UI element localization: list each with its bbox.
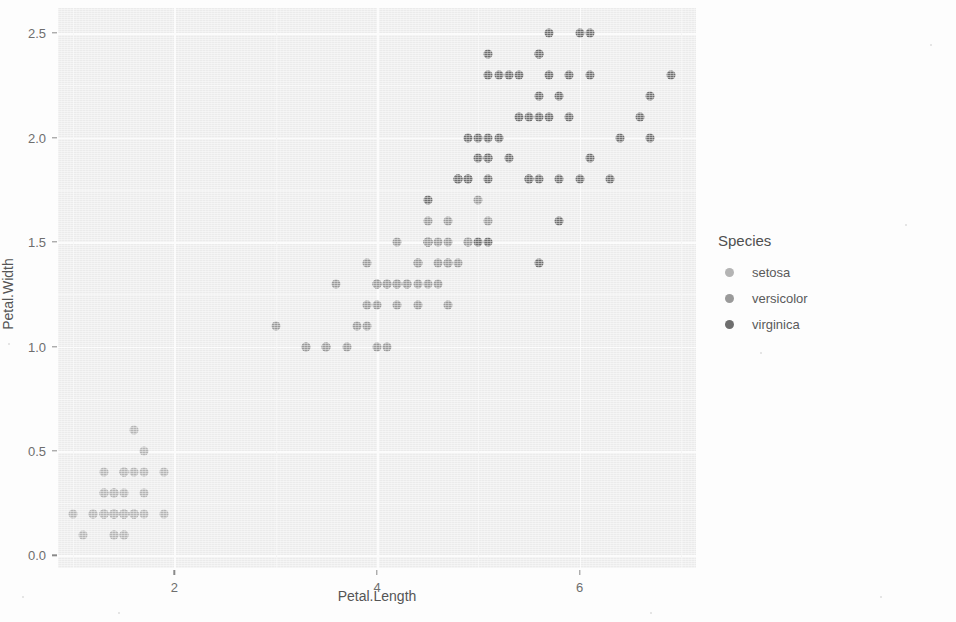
y-tick-mark: [52, 137, 57, 138]
data-point: [464, 238, 473, 247]
data-point: [109, 530, 118, 539]
data-point: [646, 133, 655, 142]
data-point: [373, 300, 382, 309]
y-tick-label: 0.5: [28, 443, 46, 458]
data-point: [140, 509, 149, 518]
data-point: [383, 342, 392, 351]
y-tick-mark: [52, 555, 57, 556]
data-point: [423, 279, 432, 288]
data-point: [464, 133, 473, 142]
data-point: [494, 133, 503, 142]
grid-line: [580, 8, 582, 568]
data-point: [362, 321, 371, 330]
data-point: [504, 70, 513, 79]
data-point: [555, 175, 564, 184]
x-tick-label: 6: [576, 580, 583, 595]
y-tick-label: 1.5: [28, 235, 46, 250]
data-point: [393, 300, 402, 309]
grid-line: [276, 8, 277, 568]
data-point: [575, 29, 584, 38]
data-point: [129, 426, 138, 435]
data-point: [484, 175, 493, 184]
speckle: [650, 612, 652, 614]
data-point: [433, 279, 442, 288]
data-point: [585, 29, 594, 38]
x-tick-label: 2: [171, 580, 178, 595]
data-point: [666, 70, 675, 79]
data-point: [99, 488, 108, 497]
data-point: [454, 258, 463, 267]
data-point: [585, 70, 594, 79]
data-point: [342, 342, 351, 351]
data-point: [129, 467, 138, 476]
y-tick-label: 2.5: [28, 26, 46, 41]
data-point: [545, 29, 554, 38]
data-point: [535, 112, 544, 121]
data-point: [443, 238, 452, 247]
y-axis-title: Petal.Width: [0, 258, 16, 330]
y-tick-label: 0.0: [28, 548, 46, 563]
data-point: [454, 175, 463, 184]
data-point: [413, 258, 422, 267]
data-point: [474, 238, 483, 247]
data-point: [119, 530, 128, 539]
data-point: [413, 279, 422, 288]
legend-dot-icon: [725, 268, 734, 277]
data-point: [332, 279, 341, 288]
speckle: [880, 596, 882, 598]
data-point: [494, 70, 503, 79]
data-point: [514, 112, 523, 121]
data-point: [636, 112, 645, 121]
legend-item-versicolor[interactable]: versicolor: [718, 285, 868, 311]
data-point: [464, 175, 473, 184]
y-tick-mark: [52, 450, 57, 451]
speckle: [22, 596, 24, 598]
data-point: [484, 133, 493, 142]
data-point: [545, 112, 554, 121]
x-axis-title: Petal.Length: [338, 588, 417, 604]
data-point: [433, 238, 442, 247]
data-point: [413, 300, 422, 309]
legend-label: versicolor: [752, 291, 808, 306]
legend-dot-icon: [725, 320, 734, 329]
data-point: [271, 321, 280, 330]
data-point: [79, 530, 88, 539]
data-point: [535, 175, 544, 184]
data-point: [504, 154, 513, 163]
data-point: [423, 196, 432, 205]
data-point: [99, 509, 108, 518]
legend: Species setosaversicolorvirginica: [718, 232, 868, 337]
data-point: [443, 217, 452, 226]
legend-item-virginica[interactable]: virginica: [718, 311, 868, 337]
legend-items: setosaversicolorvirginica: [718, 259, 868, 337]
data-point: [555, 91, 564, 100]
y-tick-mark: [52, 241, 57, 242]
legend-label: setosa: [752, 265, 790, 280]
data-point: [362, 258, 371, 267]
data-point: [119, 488, 128, 497]
data-point: [129, 509, 138, 518]
speckle: [118, 612, 120, 614]
data-point: [535, 91, 544, 100]
data-point: [565, 70, 574, 79]
legend-label: virginica: [752, 317, 800, 332]
data-point: [393, 279, 402, 288]
legend-item-setosa[interactable]: setosa: [718, 259, 868, 285]
speckle: [760, 352, 762, 354]
data-point: [119, 467, 128, 476]
y-tick-mark: [52, 32, 57, 33]
data-point: [302, 342, 311, 351]
data-point: [484, 238, 493, 247]
speckle: [8, 343, 10, 345]
x-tick-mark: [174, 570, 175, 575]
data-point: [474, 154, 483, 163]
x-tick-mark: [376, 570, 377, 575]
data-point: [140, 488, 149, 497]
data-point: [373, 279, 382, 288]
data-point: [524, 112, 533, 121]
data-point: [140, 446, 149, 455]
data-point: [433, 258, 442, 267]
data-point: [616, 133, 625, 142]
data-point: [109, 488, 118, 497]
data-point: [423, 238, 432, 247]
